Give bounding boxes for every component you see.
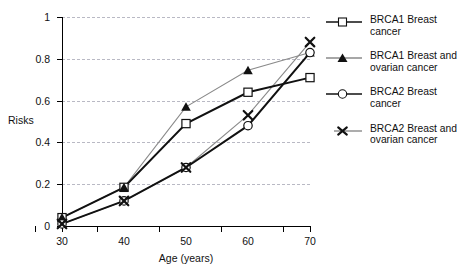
- legend-item-brca2-breast[interactable]: BRCA2 Breast cancer: [326, 86, 468, 109]
- legend-item-label: BRCA2 Breast and ovarian cancer: [370, 123, 468, 146]
- x-tick-label: 60: [242, 236, 254, 247]
- y-tick-label: 0.6: [0, 95, 50, 106]
- open-square-marker-icon: [326, 16, 362, 28]
- y-tick: [57, 142, 62, 143]
- y-tick-label: 0.2: [0, 179, 50, 190]
- filled-triangle-marker-icon: [326, 52, 362, 64]
- legend-item-label: BRCA1 Breast cancer: [370, 14, 468, 37]
- legend-item-brca1-breast[interactable]: BRCA1 Breast cancer: [326, 14, 468, 37]
- plot-area: [62, 17, 310, 226]
- x-tick: [159, 226, 160, 232]
- gridline: [62, 184, 310, 185]
- y-tick-label: 0.8: [0, 54, 50, 65]
- x-tick: [221, 226, 222, 232]
- y-tick-label: 0: [0, 221, 50, 232]
- gridline: [62, 59, 310, 60]
- x-tick-label: 40: [118, 236, 130, 247]
- x-axis-title: Age (years): [159, 252, 213, 264]
- x-tick: [62, 226, 63, 232]
- x-tick-label: 70: [304, 236, 316, 247]
- y-axis-line: [62, 17, 63, 226]
- risk-line-chart: 00.20.40.60.81 3040506070 Risks Age (yea…: [0, 0, 468, 273]
- x-tick: [35, 226, 36, 232]
- legend-item-label: BRCA2 Breast cancer: [370, 86, 468, 109]
- y-tick: [57, 101, 62, 102]
- legend-item-brca1-breast-ovarian[interactable]: BRCA1 Breast and ovarian cancer: [326, 50, 468, 73]
- x-tick: [97, 226, 98, 232]
- legend: BRCA1 Breast cancer BRCA1 Breast and ova…: [326, 14, 468, 159]
- x-axis-line: [62, 226, 310, 227]
- y-tick-label: 0.4: [0, 137, 50, 148]
- legend-item-brca2-breast-ovarian[interactable]: BRCA2 Breast and ovarian cancer: [326, 123, 468, 146]
- x-tick: [310, 226, 311, 232]
- y-tick: [57, 17, 62, 18]
- legend-item-label: BRCA1 Breast and ovarian cancer: [370, 50, 468, 73]
- y-tick-label: 1: [0, 12, 50, 23]
- gridline: [62, 17, 310, 18]
- y-tick: [57, 184, 62, 185]
- gridline: [62, 142, 310, 143]
- x-tick-label: 30: [56, 236, 68, 247]
- x-cross-marker-icon: [326, 125, 362, 137]
- x-tick-label: 50: [180, 236, 192, 247]
- y-axis-title: Risks: [8, 114, 34, 126]
- gridline: [62, 101, 310, 102]
- open-circle-marker-icon: [326, 88, 362, 100]
- y-tick: [57, 59, 62, 60]
- x-tick: [283, 226, 284, 232]
